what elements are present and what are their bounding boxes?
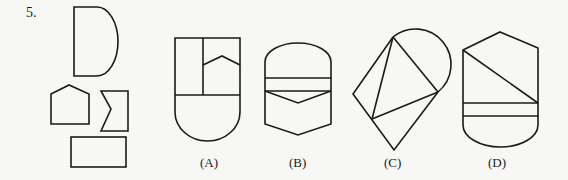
option-d-figure[interactable] xyxy=(463,32,538,147)
option-b-figure[interactable] xyxy=(265,43,331,135)
option-d-label[interactable]: (D) xyxy=(488,155,506,171)
piece-notched-rectangle xyxy=(101,91,128,131)
piece-d-shape xyxy=(74,7,118,76)
option-c-label[interactable]: (C) xyxy=(384,155,401,171)
piece-rectangle xyxy=(71,137,126,167)
option-a-label[interactable]: (A) xyxy=(200,155,218,171)
option-a-figure[interactable] xyxy=(175,38,240,141)
option-c-figure[interactable] xyxy=(353,29,451,150)
piece-pentagon xyxy=(51,85,89,124)
option-b-label[interactable]: (B) xyxy=(289,155,306,171)
